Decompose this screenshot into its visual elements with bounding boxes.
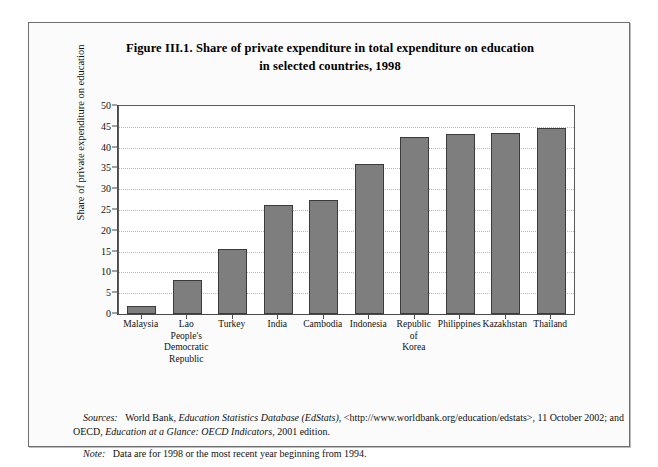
- x-tick-label-indonesia: Indonesia: [346, 319, 392, 365]
- x-axis-labels: MalaysiaLaoPeople'sDemocraticRepublicTur…: [118, 319, 573, 365]
- bar-cambodia[interactable]: [309, 200, 338, 314]
- x-tick-label-lao-people-s-democratic-republic: LaoPeople'sDemocraticRepublic: [164, 319, 210, 365]
- x-tick-label-philippines: Philippines: [437, 319, 483, 365]
- bar-lao-people-s-democratic-republic[interactable]: [173, 280, 202, 314]
- bar-republic-of-korea[interactable]: [400, 137, 429, 314]
- x-tick-label-line: Republic: [164, 354, 210, 366]
- x-tick-mark: [232, 314, 233, 319]
- x-tick-label-line: Democratic: [164, 342, 210, 354]
- bar-thailand[interactable]: [537, 128, 566, 314]
- x-tick-label-india: India: [255, 319, 301, 365]
- figure-title-line-2: in selected countries, 1998: [59, 57, 601, 75]
- x-tick-label-line: Korea: [391, 342, 437, 354]
- y-tick-label: 45: [87, 120, 111, 131]
- x-tick-mark: [414, 314, 415, 319]
- x-tick-label-kazakhstan: Kazakhstan: [482, 319, 528, 365]
- x-tick-label-republic-of-korea: RepublicofKorea: [391, 319, 437, 365]
- y-tick-label: 15: [87, 245, 111, 256]
- bar-malaysia[interactable]: [127, 306, 156, 314]
- figure-container: Figure III.1. Share of private expenditu…: [28, 22, 630, 447]
- bar-slot: [483, 106, 529, 314]
- bar-slot: [438, 106, 484, 314]
- bar-slot: [256, 106, 302, 314]
- sources-label: Sources:: [83, 412, 118, 423]
- note-block: Note: Data are for 1998 or the most rece…: [73, 447, 645, 461]
- x-tick-label-line: Turkey: [209, 319, 255, 331]
- figure-title-line-1: Figure III.1. Share of private expenditu…: [59, 39, 601, 57]
- x-tick-label-line: India: [255, 319, 301, 331]
- y-tick-label: 10: [87, 266, 111, 277]
- x-tick-label-line: Philippines: [437, 319, 483, 331]
- y-tick-label: 20: [87, 224, 111, 235]
- x-tick-mark: [459, 314, 460, 319]
- x-tick-label-line: Kazakhstan: [482, 319, 528, 331]
- bar-series: [119, 106, 574, 314]
- x-tick-label-malaysia: Malaysia: [118, 319, 164, 365]
- x-tick-label-line: People's: [164, 331, 210, 343]
- y-tick-label: 5: [87, 287, 111, 298]
- y-axis-ticks: 50454035302520151050: [93, 97, 117, 321]
- y-tick-label: 40: [87, 141, 111, 152]
- plot-area: [118, 105, 575, 315]
- bar-slot: [210, 106, 256, 314]
- x-tick-label-line: Malaysia: [118, 319, 164, 331]
- sources-text-1: World Bank,: [125, 412, 178, 423]
- x-tick-mark: [505, 314, 506, 319]
- y-tick-label: 35: [87, 162, 111, 173]
- x-tick-mark: [368, 314, 369, 319]
- bar-philippines[interactable]: [446, 134, 475, 314]
- y-axis-title: Share of private expenditure on educatio…: [75, 38, 86, 228]
- sources-italic-2: Education at a Glance: OECD Indicators,: [105, 426, 274, 437]
- y-tick-label: 50: [87, 100, 111, 111]
- x-tick-mark: [186, 314, 187, 319]
- figure-title: Figure III.1. Share of private expenditu…: [59, 39, 601, 75]
- x-tick-label-line: Republic: [391, 319, 437, 331]
- note-text: Data are for 1998 or the most recent yea…: [113, 448, 367, 459]
- y-tick-label: 30: [87, 183, 111, 194]
- x-tick-mark: [323, 314, 324, 319]
- x-tick-label-cambodia: Cambodia: [300, 319, 346, 365]
- sources-italic-1: Education Statistics Database (EdStats): [178, 412, 338, 423]
- bar-indonesia[interactable]: [355, 164, 384, 314]
- x-tick-mark: [550, 314, 551, 319]
- x-tick-label-line: Lao: [164, 319, 210, 331]
- x-tick-label-turkey: Turkey: [209, 319, 255, 365]
- x-tick-label-line: of: [391, 331, 437, 343]
- bar-slot: [119, 106, 165, 314]
- x-tick-label-line: Cambodia: [300, 319, 346, 331]
- bar-india[interactable]: [264, 205, 293, 314]
- bar-slot: [165, 106, 211, 314]
- figure-notes: Sources: World Bank, Education Statistic…: [73, 411, 645, 467]
- x-tick-label-line: Thailand: [528, 319, 574, 331]
- bar-slot: [301, 106, 347, 314]
- x-tick-label-thailand: Thailand: [528, 319, 574, 365]
- sources-text-3: 2001 edition.: [275, 426, 330, 437]
- bar-slot: [392, 106, 438, 314]
- note-label: Note:: [83, 448, 105, 459]
- y-tick-label: 0: [87, 308, 111, 319]
- bar-kazakhstan[interactable]: [491, 133, 520, 314]
- x-tick-mark: [277, 314, 278, 319]
- bar-slot: [529, 106, 575, 314]
- bar-turkey[interactable]: [218, 249, 247, 314]
- x-tick-label-line: Indonesia: [346, 319, 392, 331]
- bar-slot: [347, 106, 393, 314]
- sources-block: Sources: World Bank, Education Statistic…: [73, 411, 645, 439]
- y-tick-label: 25: [87, 204, 111, 215]
- x-tick-mark: [141, 314, 142, 319]
